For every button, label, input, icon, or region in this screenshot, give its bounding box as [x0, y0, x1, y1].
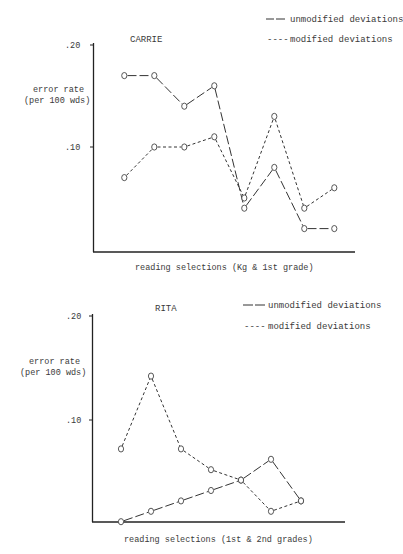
series-segment: [307, 190, 332, 207]
data-point-marker: [302, 226, 307, 232]
chart-rita: RITA unmodified deviations ---- modified…: [20, 301, 381, 545]
data-point-marker: [182, 103, 187, 109]
series-segment: [154, 502, 178, 510]
data-point-marker: [152, 73, 157, 79]
series-segment: [187, 88, 212, 105]
data-point-marker: [178, 498, 183, 504]
series-segment: [246, 170, 272, 206]
legend: unmodified deviations ---- modified devi…: [266, 15, 403, 45]
data-point-marker: [152, 144, 157, 150]
legend-modified-swatch: ----: [267, 35, 289, 45]
data-point-marker: [268, 456, 273, 462]
series-segment: [152, 379, 180, 446]
legend-modified-label: modified deviations: [268, 322, 371, 332]
series-segment: [243, 482, 269, 509]
series-segment: [274, 502, 298, 510]
legend-unmodified-label: unmodified deviations: [290, 15, 403, 25]
data-point-marker: [272, 113, 277, 119]
x-axis-label: reading selections (Kg & 1st grade): [135, 263, 314, 273]
data-point-marker: [332, 226, 337, 232]
plot-area: [122, 73, 337, 232]
data-point-marker: [118, 519, 123, 525]
y-tick-label: .20: [65, 41, 80, 51]
series-segment: [214, 471, 238, 479]
series-segment: [184, 492, 208, 500]
plot-area: [118, 373, 303, 525]
data-point-marker: [238, 477, 243, 483]
legend-modified-label: modified deviations: [290, 35, 393, 45]
series-segment: [187, 138, 211, 146]
data-point-marker: [302, 205, 307, 211]
series-segment: [244, 461, 269, 478]
series-segment: [127, 149, 153, 175]
data-point-marker: [208, 467, 213, 473]
legend: unmodified deviations ---- modified devi…: [243, 301, 381, 332]
data-point-marker: [332, 185, 337, 191]
y-tick-label: .20: [66, 312, 81, 322]
data-point-marker: [148, 508, 153, 514]
data-point-marker: [242, 195, 247, 201]
data-point-marker: [178, 446, 183, 452]
series-segment: [184, 451, 209, 468]
series-segment: [276, 170, 303, 225]
y-tick-label: .10: [65, 143, 80, 153]
data-point-marker: [268, 508, 273, 514]
y-axis-label-line2: (per 100 wds): [24, 96, 90, 106]
data-point-marker: [122, 73, 127, 79]
data-point-marker: [212, 83, 217, 89]
y-axis-label-line1: error rate: [29, 357, 80, 367]
x-axis-label: reading selections (1st & 2nd grades): [124, 535, 313, 545]
data-point-marker: [298, 498, 303, 504]
data-point-marker: [122, 175, 127, 181]
y-tick-label: .10: [66, 416, 81, 426]
data-point-marker: [212, 134, 217, 140]
chart-title: CARRIE: [130, 35, 162, 45]
data-point-marker: [182, 144, 187, 150]
series-segment: [124, 512, 148, 520]
series-segment: [214, 481, 238, 489]
y-axis-label-line1: error rate: [33, 85, 84, 95]
figure: CARRIE unmodified deviations ---- modifi…: [0, 0, 403, 554]
data-point-marker: [272, 164, 277, 170]
chart-carrie: CARRIE unmodified deviations ---- modifi…: [24, 15, 403, 273]
series-segment: [122, 379, 150, 446]
y-axis-label-line2: (per 100 wds): [20, 368, 86, 378]
data-point-marker: [242, 205, 247, 211]
data-point-marker: [208, 487, 213, 493]
series-segment: [245, 119, 273, 195]
series-segment: [157, 78, 183, 104]
data-point-marker: [118, 446, 123, 452]
chart-title: RITA: [155, 304, 177, 314]
series-segment: [275, 119, 303, 205]
series-segment: [273, 462, 299, 498]
legend-modified-swatch: ----: [244, 322, 266, 332]
legend-unmodified-label: unmodified deviations: [268, 301, 381, 311]
data-point-marker: [148, 373, 153, 379]
